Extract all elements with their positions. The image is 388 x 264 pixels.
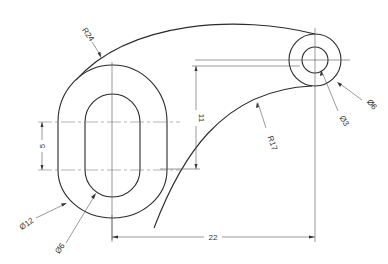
d12-label: Ø12	[18, 216, 36, 232]
arrow-icon	[309, 236, 315, 239]
dim-11-label: 11	[197, 114, 206, 123]
d6-boss-leader	[339, 83, 362, 100]
dim-22-label: 22	[209, 233, 218, 242]
d12-leader	[36, 204, 65, 218]
arrow-icon	[91, 193, 96, 199]
d3-leader	[322, 72, 338, 111]
arrow-icon	[41, 122, 44, 127]
r24-label: R24	[80, 26, 96, 44]
arrow-icon	[61, 203, 67, 207]
dim-5-label: 5	[38, 143, 47, 148]
r17-leader	[258, 103, 266, 128]
r17-label: R17	[266, 135, 280, 152]
arrow-icon	[195, 66, 198, 71]
arrow-icon	[112, 236, 118, 239]
arrow-icon	[98, 52, 102, 58]
arrow-icon	[195, 164, 198, 169]
slot-inner-profile	[85, 94, 140, 197]
inner-connecting-arc	[154, 86, 312, 228]
technical-drawing: 5 11 22 R24 R17 Ø3 Ø6 Ø12 Ø6	[0, 0, 388, 264]
d6-slot-leader	[66, 195, 95, 243]
d6-slot-label: Ø6	[53, 241, 67, 255]
d6-boss-label: Ø6	[365, 97, 379, 111]
d3-label: Ø3	[338, 114, 351, 128]
arrow-icon	[337, 82, 342, 87]
slot-outer-profile	[58, 65, 167, 218]
arrow-icon	[41, 165, 44, 170]
